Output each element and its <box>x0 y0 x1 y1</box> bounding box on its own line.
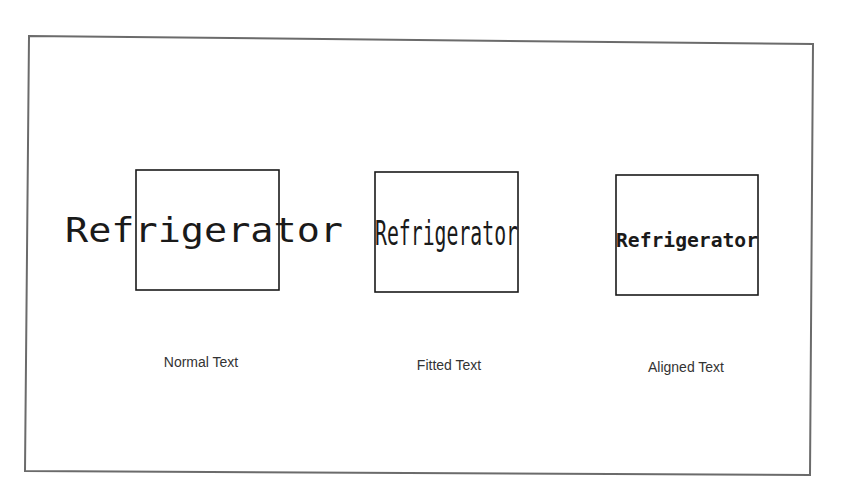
drawing-frame <box>25 36 813 475</box>
aligned-text-caption: Aligned Text <box>648 359 724 375</box>
normal-text-content: Refrigerator <box>65 211 343 250</box>
drawing-canvas: Refrigerator Normal Text Refrigerator Fi… <box>0 0 841 500</box>
fitted-text-caption: Fitted Text <box>417 357 481 373</box>
example-aligned-text: Refrigerator Aligned Text <box>616 175 758 375</box>
example-fitted-text: Refrigerator Fitted Text <box>375 172 518 373</box>
example-normal-text: Refrigerator Normal Text <box>65 170 343 370</box>
fitted-text-content: Refrigerator <box>375 214 518 253</box>
normal-text-caption: Normal Text <box>164 354 239 370</box>
aligned-text-content: Refrigerator <box>616 229 758 251</box>
